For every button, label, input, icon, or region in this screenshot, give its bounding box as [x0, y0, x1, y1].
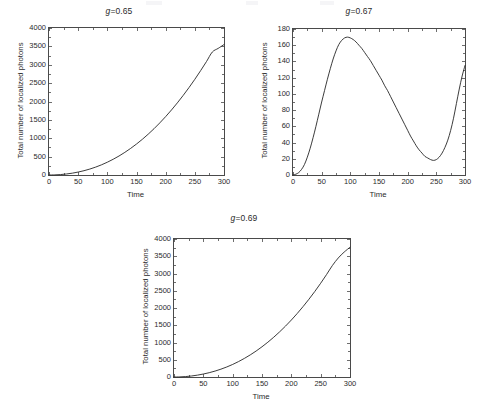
y-tick-label: 2500 [29, 79, 46, 87]
y-tick-label: 2500 [154, 287, 171, 295]
y-tick-label: 40 [282, 139, 290, 147]
plot-area-g065: 0500100015002000250030003500400005010015… [48, 27, 225, 176]
y-tick-label: 20 [282, 155, 290, 163]
y-tick-label: 140 [277, 57, 290, 65]
x-tick-label: 200 [401, 178, 414, 186]
y-tick-label: 2000 [29, 98, 46, 106]
y-tick-label: 1500 [154, 321, 171, 329]
top-artifact-right [320, 1, 334, 5]
x-tick-label: 100 [101, 178, 114, 186]
y-tick-label: 80 [282, 106, 290, 114]
x-tick-label: 200 [159, 178, 172, 186]
x-tick-label: 150 [373, 178, 386, 186]
plot-area-g069: 0500100015002000250030003500400005010015… [173, 238, 351, 378]
x-tick-label: 50 [74, 178, 82, 186]
y-tick-label: 2000 [154, 304, 171, 312]
x-tick-label: 0 [172, 380, 176, 388]
y-tick-label: 60 [282, 122, 290, 130]
y-tick-label: 3500 [154, 252, 171, 260]
chart-panel-g065: g=0.65 050010001500200025003000350040000… [0, 6, 238, 205]
data-curve [174, 247, 350, 377]
panel-title-value-g067: =0.67 [350, 6, 372, 16]
y-tick-label: 4000 [29, 24, 46, 32]
plot-svg-g067 [293, 29, 465, 175]
x-axis-label-g067: Time [292, 190, 464, 199]
figure-canvas: g=0.65 050010001500200025003000350040000… [0, 0, 478, 409]
y-tick-label: 0 [42, 171, 46, 179]
panel-title-g069: g=0.69 [125, 213, 363, 223]
y-tick-label: 0 [167, 373, 171, 381]
data-curve [293, 37, 465, 175]
y-tick-label: 1000 [29, 134, 46, 142]
x-tick-label: 300 [344, 380, 357, 388]
x-tick-label: 50 [317, 178, 325, 186]
panel-title-g065: g=0.65 [0, 6, 238, 16]
x-axis-label-g065: Time [48, 190, 223, 199]
top-artifact-mid [246, 1, 258, 5]
x-tick-label: 50 [199, 380, 207, 388]
y-tick-label: 500 [158, 356, 171, 364]
x-tick-label: 250 [430, 178, 443, 186]
y-tick-label: 3500 [29, 42, 46, 50]
y-axis-label-g067: Total number of localized photons [260, 28, 269, 174]
panel-title-g067: g=0.67 [240, 6, 478, 16]
y-tick-label: 1500 [29, 116, 46, 124]
x-tick-label: 100 [226, 380, 239, 388]
x-tick-label: 200 [285, 380, 298, 388]
y-axis-label-g069: Total number of localized photons [141, 238, 150, 376]
panel-title-value-g065: =0.65 [110, 6, 132, 16]
y-tick-label: 3000 [154, 270, 171, 278]
x-tick-label: 100 [344, 178, 357, 186]
y-tick-label: 0 [286, 171, 290, 179]
x-tick-label: 300 [218, 178, 231, 186]
y-tick-label: 3000 [29, 61, 46, 69]
y-tick-label: 180 [277, 25, 290, 33]
y-tick-label: 160 [277, 41, 290, 49]
y-tick-label: 120 [277, 74, 290, 82]
x-tick-label: 150 [130, 178, 143, 186]
x-tick-label: 0 [291, 178, 295, 186]
plot-area-g067: 0204060801001201401601800501001502002503… [292, 28, 466, 176]
data-curve [49, 45, 224, 175]
plot-svg-g065 [49, 28, 224, 175]
chart-panel-g067: g=0.67 020406080100120140160180050100150… [240, 6, 478, 205]
x-tick-label: 250 [189, 178, 202, 186]
y-tick-label: 500 [33, 153, 46, 161]
x-tick-label: 300 [459, 178, 472, 186]
x-tick-label: 150 [256, 380, 269, 388]
panel-title-value-g069: =0.69 [235, 213, 257, 223]
x-tick-label: 250 [314, 380, 327, 388]
y-tick-label: 100 [277, 90, 290, 98]
plot-svg-g069 [174, 239, 350, 377]
x-axis-label-g069: Time [173, 392, 349, 401]
top-artifact-left [146, 1, 162, 5]
y-axis-label-g065: Total number of localized photons [16, 27, 25, 174]
y-tick-label: 1000 [154, 339, 171, 347]
x-tick-label: 0 [47, 178, 51, 186]
y-tick-label: 4000 [154, 235, 171, 243]
chart-panel-g069: g=0.69 050010001500200025003000350040000… [125, 213, 363, 409]
